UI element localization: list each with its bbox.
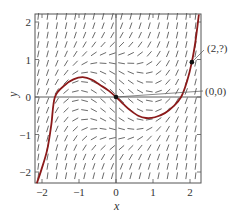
slope-mark: [82, 136, 87, 141]
slope-mark: [46, 69, 48, 75]
slope-mark: [137, 109, 143, 112]
slope-mark: [195, 116, 197, 123]
slope-mark: [119, 71, 125, 74]
slope-mark: [110, 108, 115, 112]
slope-mark: [101, 42, 106, 47]
slope-mark: [176, 22, 177, 29]
slope-mark: [167, 172, 168, 179]
slope-mark: [74, 22, 76, 29]
slope-mark: [167, 22, 168, 29]
slope-mark: [176, 144, 178, 151]
slope-mark: [195, 107, 197, 114]
slope-mark: [166, 70, 170, 76]
slope-mark: [37, 79, 39, 86]
slope-mark: [102, 172, 104, 179]
slope-mark: [47, 41, 48, 48]
slope-mark: [128, 145, 133, 150]
slope-mark: [93, 172, 95, 179]
slope-mark: [139, 23, 141, 29]
x-tick-label: 2: [187, 186, 193, 198]
slope-mark: [185, 98, 187, 104]
slope-mark: [55, 60, 58, 66]
x-axis-label: x: [113, 199, 120, 213]
slope-mark: [176, 116, 179, 122]
slope-mark: [83, 32, 86, 38]
slope-mark: [65, 154, 67, 161]
slope-mark: [176, 126, 179, 132]
slope-mark: [155, 100, 161, 102]
slope-mark: [73, 127, 78, 132]
slope-mark: [110, 80, 115, 84]
slope-mark: [185, 88, 187, 94]
slope-mark: [55, 116, 58, 122]
slope-mark: [157, 135, 161, 141]
slope-mark: [185, 135, 187, 142]
slope-mark: [195, 60, 196, 67]
y-tick-label: 1: [26, 54, 32, 66]
slope-mark: [47, 126, 49, 132]
slope-mark: [176, 32, 177, 39]
slope-mark: [91, 99, 97, 103]
slope-mark: [38, 32, 39, 39]
slope-mark: [139, 32, 142, 38]
slope-mark: [157, 51, 160, 57]
slope-mark: [100, 137, 106, 139]
slope-mark: [137, 81, 143, 84]
slope-mark: [55, 107, 58, 113]
slope-mark: [72, 91, 79, 93]
slope-mark: [65, 135, 68, 141]
slope-mark: [64, 70, 68, 75]
slope-mark: [56, 135, 58, 141]
slope-mark: [128, 89, 133, 93]
annotation-point-dot: [114, 95, 119, 100]
slope-mark: [91, 119, 98, 121]
slope-mark: [166, 126, 169, 132]
slope-mark: [185, 126, 187, 133]
annotation-label: (2,?): [207, 42, 228, 55]
slope-mark: [186, 32, 187, 39]
slope-mark: [157, 41, 160, 47]
slope-mark: [119, 108, 124, 112]
slope-mark: [146, 127, 152, 130]
y-tick-label: 2: [26, 16, 32, 28]
slope-mark: [55, 126, 58, 132]
slope-mark: [73, 135, 77, 141]
slope-mark: [92, 145, 96, 150]
slope-mark: [195, 22, 196, 29]
slope-mark: [119, 42, 124, 47]
slope-mark: [75, 172, 76, 179]
slope-mark: [148, 22, 150, 29]
slope-mark: [109, 53, 115, 55]
slope-mark: [56, 41, 58, 48]
slope-mark: [38, 60, 40, 67]
slope-mark: [128, 99, 133, 103]
slope-mark: [139, 154, 142, 160]
slope-mark: [155, 109, 161, 112]
slope-mark: [100, 71, 106, 74]
slope-mark: [167, 163, 168, 170]
slope-mark: [120, 23, 122, 29]
slope-mark: [146, 119, 153, 120]
slope-mark: [72, 109, 78, 111]
slope-mark: [64, 108, 69, 113]
slope-mark: [38, 154, 39, 161]
slope-mark: [111, 172, 113, 179]
slope-mark: [55, 79, 58, 85]
x-tick-label: 0: [113, 186, 119, 198]
slope-mark: [65, 51, 68, 57]
slope-mark: [47, 60, 49, 67]
slope-mark: [109, 128, 116, 130]
slope-mark: [176, 41, 178, 48]
slope-mark: [118, 63, 125, 64]
slope-mark: [119, 80, 124, 84]
slope-mark: [93, 163, 95, 169]
slope-mark: [83, 42, 86, 48]
slope-mark: [157, 145, 160, 151]
annotation-point-dot: [190, 60, 195, 65]
slope-mark: [128, 71, 134, 74]
slope-mark: [146, 100, 153, 101]
slope-mark: [110, 145, 115, 149]
slope-mark: [72, 71, 78, 75]
slope-mark: [111, 23, 113, 29]
slope-mark: [155, 90, 161, 92]
